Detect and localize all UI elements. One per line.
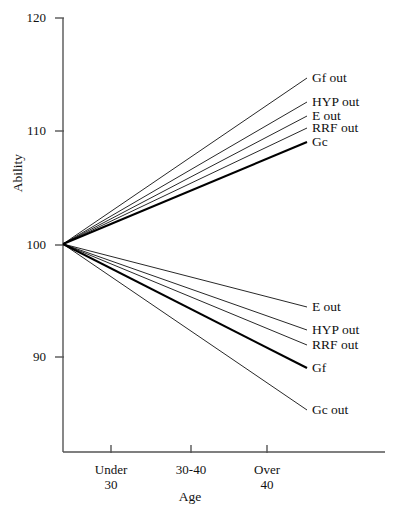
series-label: RRF out — [312, 338, 358, 351]
series-label: HYP out — [312, 323, 359, 336]
series-line — [63, 78, 307, 244]
series-label: E out — [312, 300, 341, 313]
x-tick-label-line1: 30-40 — [151, 462, 231, 477]
x-tick-label-line1: Over — [227, 462, 307, 477]
x-axis-title: Age — [150, 489, 230, 505]
series-label: HYP out — [312, 95, 359, 108]
series-line — [63, 244, 307, 307]
series-label: Gf — [312, 361, 326, 374]
series-label: RRF out — [312, 121, 358, 134]
series-line — [63, 128, 307, 244]
chart-figure: 12011010090 Under3030-40Over40 Gf outHYP… — [0, 0, 393, 514]
x-tick-label: 30-40 — [151, 462, 231, 477]
x-tick-label-line2: 30 — [71, 477, 151, 492]
series-line — [63, 244, 307, 410]
series-label: Gc out — [312, 403, 348, 416]
series-line — [63, 244, 307, 368]
series-line — [63, 244, 307, 330]
y-tick-label: 100 — [6, 238, 46, 251]
series-line — [63, 116, 307, 244]
x-tick-label: Under30 — [71, 462, 151, 492]
series-line — [63, 102, 307, 244]
series-label: Gc — [312, 135, 328, 148]
series-line — [63, 244, 307, 345]
series-line — [63, 142, 307, 244]
x-tick-label-line1: Under — [71, 462, 151, 477]
y-tick-label: 110 — [6, 124, 46, 137]
y-axis-title: Ability — [10, 143, 26, 203]
x-tick-label: Over40 — [227, 462, 307, 492]
x-tick-label-line2: 40 — [227, 477, 307, 492]
y-tick-label: 90 — [6, 350, 46, 363]
series-label: Gf out — [312, 71, 347, 84]
y-tick-label: 120 — [6, 11, 46, 24]
series-lines-group — [63, 78, 307, 410]
